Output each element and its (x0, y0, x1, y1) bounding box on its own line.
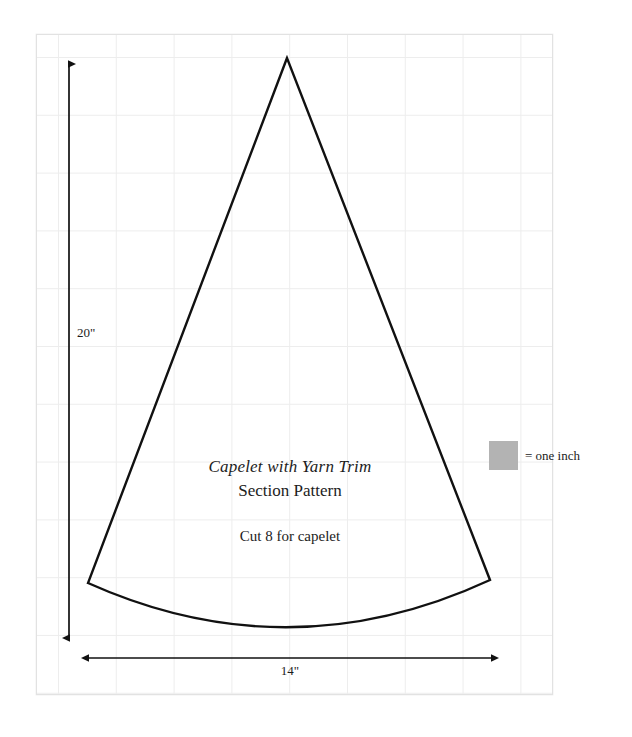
pattern-sheet (36, 34, 553, 695)
height-dimension-label: 20" (77, 325, 95, 341)
pattern-subtitle: Section Pattern (0, 481, 580, 501)
scale-legend-label: = one inch (525, 448, 580, 464)
one-inch-swatch (489, 441, 518, 470)
width-dimension-label: 14" (0, 663, 580, 679)
scale-legend: = one inch (489, 441, 580, 470)
cut-instruction-text: Cut 8 for capelet (0, 528, 580, 545)
